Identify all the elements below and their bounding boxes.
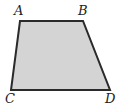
vertex-label-c: C	[5, 91, 15, 106]
trapezoid-diagram: A B D C	[0, 0, 126, 106]
vertex-label-a: A	[13, 3, 23, 18]
vertex-label-d: D	[104, 91, 116, 106]
vertex-label-b: B	[77, 3, 88, 18]
diagram-svg: A B D C	[0, 0, 126, 106]
trapezoid-abdc	[11, 21, 110, 90]
